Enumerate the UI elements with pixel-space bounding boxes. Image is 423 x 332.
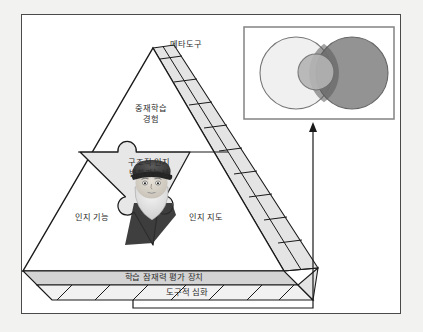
venn-panel [244,27,394,119]
figure-root: 메타도구 중재학습 경험 구조적 인지 변화가능성 인지 기능 인지 지도 학습… [0,0,423,332]
pyramid-base-bands [23,268,318,300]
diagram-canvas [22,15,400,313]
venn-inner-medium-circle [298,54,334,90]
figure-frame: 메타도구 중재학습 경험 구조적 인지 변화가능성 인지 기능 인지 지도 학습… [21,14,401,314]
